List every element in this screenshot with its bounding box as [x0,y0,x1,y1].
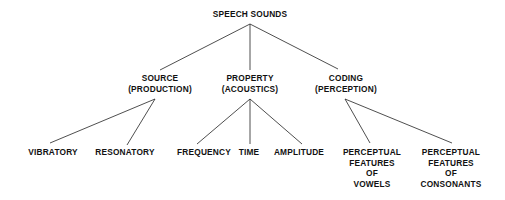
edge-root-to-source [160,24,250,70]
node-frequency: FREQUENCY [177,147,231,158]
edge-root-to-coding [250,24,338,69]
node-sublabel: (PRODUCTION) [128,84,192,95]
node-label-line: FEATURES [420,158,481,169]
node-label: PROPERTY [222,73,279,84]
node-label: VIBRATORY [28,147,78,158]
node-label-line: VOWELS [343,179,401,190]
node-speech-sounds: SPEECH SOUNDS [213,9,288,20]
speech-sounds-tree-diagram: SPEECH SOUNDS SOURCE (PRODUCTION) PROPER… [0,0,505,200]
edge-property-to-amplitude [250,99,302,144]
node-label-line: OF [420,168,481,179]
node-resonatory: RESONATORY [95,147,154,158]
node-label: SPEECH SOUNDS [213,9,288,20]
node-label: TIME [239,147,260,158]
node-label: AMPLITUDE [274,147,324,158]
node-property-acoustics: PROPERTY (ACOUSTICS) [222,73,279,94]
edge-coding-to-vowels [345,99,370,143]
node-perceptual-features-of-vowels: PERCEPTUAL FEATURES OF VOWELS [343,147,401,189]
node-label-line: OF [343,168,401,179]
node-source-production: SOURCE (PRODUCTION) [128,73,192,94]
edge-source-to-resonatory [127,99,155,145]
edge-source-to-vibratory [50,99,155,143]
node-label: CODING [315,73,377,84]
edge-coding-to-consonants [345,99,452,143]
node-vibratory: VIBRATORY [28,147,78,158]
edge-property-to-frequency [197,99,250,144]
node-label-line: PERCEPTUAL [343,147,401,158]
node-sublabel: (PERCEPTION) [315,84,377,95]
node-sublabel: (ACOUSTICS) [222,84,279,95]
node-label: SOURCE [128,73,192,84]
node-coding-perception: CODING (PERCEPTION) [315,73,377,94]
node-label: RESONATORY [95,147,154,158]
node-label-line: PERCEPTUAL [420,147,481,158]
node-label-line: FEATURES [343,158,401,169]
node-perceptual-features-of-consonants: PERCEPTUAL FEATURES OF CONSONANTS [420,147,481,189]
node-label: FREQUENCY [177,147,231,158]
node-time: TIME [239,147,260,158]
node-amplitude: AMPLITUDE [274,147,324,158]
node-label-line: CONSONANTS [420,179,481,190]
